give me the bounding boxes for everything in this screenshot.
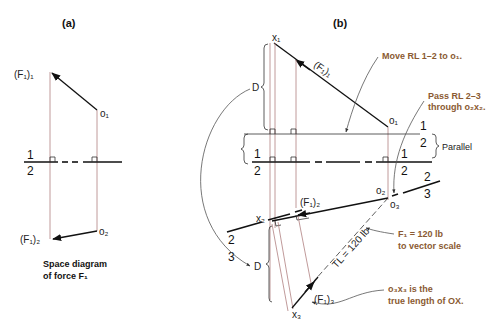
rl23-left-label-2: 2 [228,233,235,247]
panel-b: (b) x₁ (F₁)₁ o₁ D 1 2 Parallel [201,17,486,320]
label-d-lower: D [254,261,261,272]
force-vector-view2 [272,198,388,221]
rl23-right-label-2: 2 [424,170,431,184]
label-f1-view1: (F₁)₁ [14,69,34,80]
label-x3: x₃ [292,309,301,320]
label-o3: o₃ [390,199,400,210]
left-brace [241,134,248,164]
label-o1: o₁ [389,115,399,126]
label-o2: o₂ [376,185,386,196]
label-o2: o₂ [99,226,109,237]
rl-left-label-1: 1 [254,147,261,161]
panel-b-title: (b) [333,17,347,29]
caption-line1: Space diagram [43,259,107,269]
label-f1-view1: (F₁)₁ [312,59,335,80]
rl-moved-label-2: 2 [420,136,427,150]
rl-label-1: 1 [27,148,34,162]
caption-line2: of force F₁ [43,271,88,281]
rl-label-2: 2 [27,164,34,178]
leader-move-rl [346,57,378,132]
transfer-distance-arrow [201,89,250,266]
note-move-rl: Move RL 1–2 to o₁. [382,51,462,61]
note-f1-scale-1: F₁ = 120 lb [398,229,443,239]
parallel-brace [432,134,439,158]
distance-d-brace-upper [261,44,268,130]
force-diagram: (a) (F₁)₁ o₁ 1 2 (F₁)₂ o₂ Space diagram … [0,0,496,327]
panel-a-title: (a) [62,17,76,29]
label-d-upper: D [252,82,259,93]
panel-a: (a) (F₁)₁ o₁ 1 2 (F₁)₂ o₂ Space diagram … [14,17,122,281]
label-parallel: Parallel [442,142,472,152]
rl-left-label-2: 2 [254,164,261,178]
rl23-right-label-3: 3 [424,187,431,201]
label-o1: o₁ [100,108,110,119]
force-vector-view1 [52,73,97,110]
label-true-length: TL = 120 lb [330,225,372,270]
force-vector-view2 [53,231,97,239]
note-pass-rl-2: through o₂x₂. [428,102,486,112]
rl-right-label-2: 2 [401,164,408,178]
note-f1-scale-2: to vector scale [398,241,461,251]
note-true-length-1: o₃x₃ is the [388,284,433,294]
distance-d-brace-lower [266,226,272,302]
note-pass-rl-1: Pass RL 2–3 [428,91,481,101]
label-x1: x₁ [272,32,281,43]
projector-f1-view3 [298,216,311,283]
label-f1-view2: (F₁)₂ [20,234,40,245]
force-vector-view1 [274,43,388,127]
label-f1-view2: (F₁)₂ [300,197,320,208]
note-true-length-2: true length of OX. [388,296,464,306]
label-x2: x₂ [256,213,265,224]
rl-moved-label-1: 1 [420,119,427,133]
rl-right-label-1: 1 [401,147,408,161]
